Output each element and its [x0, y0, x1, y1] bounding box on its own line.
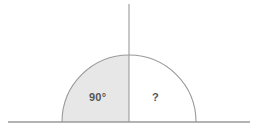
- unknown-angle-label: ?: [152, 92, 159, 103]
- geometry-canvas: [0, 0, 257, 129]
- angle-diagram: 90° ?: [0, 0, 257, 129]
- shaded-sector: [62, 55, 129, 122]
- known-angle-label: 90°: [89, 92, 106, 103]
- unknown-sector: [129, 55, 196, 122]
